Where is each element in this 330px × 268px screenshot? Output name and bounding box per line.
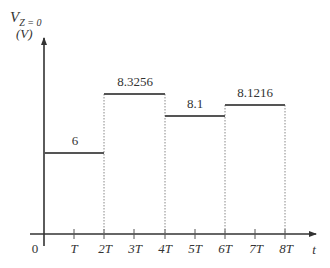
tick-label-2T: 2T (98, 241, 113, 256)
tick-label-0: 0 (32, 241, 39, 256)
tick-label-7T: 7T (249, 241, 264, 256)
value-label-1: 6 (72, 133, 79, 148)
value-label-3: 8.1 (187, 96, 203, 111)
tick-label-T: T (70, 241, 78, 256)
tick-label-5T: 5T (188, 241, 203, 256)
tick-label-3T: 3T (127, 241, 143, 256)
x-axis-label: t (312, 242, 316, 257)
value-label-2: 8.3256 (117, 74, 153, 89)
x-tick-labels: 0 T 2T 3T 4T 5T 6T 7T 8T t (32, 241, 316, 257)
tick-label-6T: 6T (218, 241, 233, 256)
tick-label-4T: 4T (158, 241, 173, 256)
step-chart: VZ = 0 (V) 0 T 2T 3T 4T 5T 6T 7T 8T t (0, 0, 330, 268)
y-axis-unit: (V) (16, 26, 33, 41)
value-labels: 6 8.3256 8.1 8.1216 (72, 74, 274, 148)
tick-label-8T: 8T (279, 241, 294, 256)
step-segments (44, 94, 285, 153)
value-label-4: 8.1216 (237, 85, 273, 100)
